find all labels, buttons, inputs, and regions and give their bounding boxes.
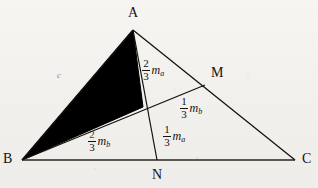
vertex-label-b: B [3, 152, 12, 166]
fraction-two-thirds: 2 3 [88, 129, 96, 153]
vertex-label-a: A [128, 6, 138, 20]
vertex-label-c: C [302, 152, 311, 166]
side-label-c: c [57, 71, 61, 80]
measure-label-one-third-ma: 1 3 ma [163, 124, 185, 148]
median-symbol-ma: ma [152, 64, 164, 76]
measure-label-one-third-mb: 1 3 mb [180, 96, 202, 120]
shaded-triangle-region [22, 30, 143, 160]
fraction-two-thirds: 2 3 [142, 58, 150, 82]
fraction-one-third: 1 3 [180, 96, 188, 120]
median-symbol-mb: mb [98, 135, 110, 147]
measure-label-two-thirds-ma: 2 3 ma [142, 58, 164, 82]
median-symbol-ma: ma [173, 130, 185, 142]
fraction-one-third: 1 3 [163, 124, 171, 148]
side-ca [133, 30, 295, 160]
vertex-label-n: N [152, 168, 162, 182]
triangle-diagram [0, 0, 318, 188]
median-symbol-mb: mb [190, 102, 202, 114]
measure-label-two-thirds-mb: 2 3 mb [88, 129, 110, 153]
vertex-label-m: M [211, 66, 223, 80]
geometry-figure: A B C M N c 2 3 ma 1 3 ma 1 3 mb 2 [0, 0, 318, 188]
